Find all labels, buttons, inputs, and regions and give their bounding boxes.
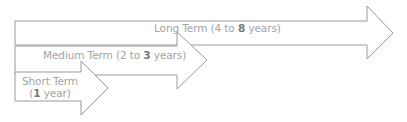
short-term-label-line1: Short Term bbox=[22, 75, 78, 87]
medium-term-label-bold: 3 bbox=[143, 49, 150, 61]
medium-term-label-prefix: Medium Term (2 to bbox=[43, 49, 143, 61]
long-term-label-suffix: years) bbox=[245, 22, 281, 34]
short-term-label-line2-suffix: year) bbox=[40, 87, 70, 99]
arrows-diagram bbox=[0, 0, 407, 122]
long-term-label-prefix: Long Term (4 to bbox=[154, 22, 238, 34]
short-term-label: Short Term (1 year) bbox=[22, 75, 78, 99]
medium-term-label: Medium Term (2 to 3 years) bbox=[43, 49, 186, 61]
medium-term-label-suffix: years) bbox=[151, 49, 187, 61]
long-term-label: Long Term (4 to 8 years) bbox=[154, 22, 281, 34]
short-term-label-line2: (1 year) bbox=[22, 87, 78, 99]
